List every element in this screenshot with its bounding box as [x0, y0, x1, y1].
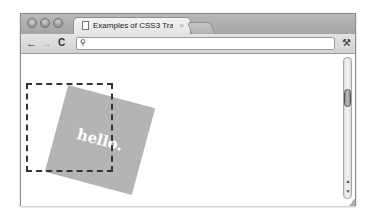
- wrench-icon[interactable]: ⚒: [342, 37, 351, 48]
- reload-icon[interactable]: C: [58, 37, 65, 49]
- document-icon: [82, 21, 89, 30]
- scrollbar-thumb[interactable]: [344, 89, 351, 107]
- back-arrow-icon[interactable]: ←: [26, 37, 37, 49]
- browser-window: Examples of CSS3 Transforms × ← → C ⚲ ⚒ …: [20, 13, 356, 206]
- original-position-outline: [26, 83, 113, 172]
- page-content: hello. ▲ ▼: [21, 54, 355, 206]
- title-bar: Examples of CSS3 Transforms ×: [21, 14, 355, 34]
- toolbar: ← → C ⚲ ⚒: [21, 34, 355, 54]
- tab-title: Examples of CSS3 Transforms: [93, 21, 173, 30]
- tab-css3-transforms[interactable]: Examples of CSS3 Transforms ×: [73, 17, 191, 35]
- close-window-button[interactable]: [27, 18, 37, 28]
- new-tab-button[interactable]: [187, 22, 215, 34]
- forward-arrow-icon[interactable]: →: [41, 37, 52, 49]
- tab-close-icon[interactable]: ×: [179, 21, 184, 30]
- vertical-scrollbar[interactable]: ▲ ▼: [343, 57, 352, 199]
- minimize-window-button[interactable]: [40, 18, 50, 28]
- resize-grip[interactable]: [348, 199, 355, 206]
- search-icon: ⚲: [80, 38, 86, 47]
- address-bar[interactable]: ⚲: [76, 37, 335, 50]
- scroll-up-arrow-icon[interactable]: ▲: [345, 178, 351, 184]
- zoom-window-button[interactable]: [53, 18, 63, 28]
- scroll-down-arrow-icon[interactable]: ▼: [345, 188, 351, 194]
